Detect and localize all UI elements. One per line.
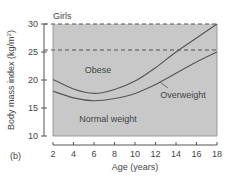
y-tick-label: 20: [28, 75, 38, 85]
panel-label: (b): [10, 151, 21, 161]
x-tick-label: 14: [171, 149, 181, 159]
x-tick-label: 12: [150, 149, 160, 159]
chart-title: Girls: [53, 11, 72, 21]
annotation-overweight: Overweight: [160, 90, 206, 100]
x-tick-label: 2: [50, 149, 55, 159]
y-tick-label: 25: [28, 47, 38, 57]
annotation-normal-weight: Normal weight: [79, 114, 137, 124]
x-tick-label: 10: [130, 149, 140, 159]
bmi-chart: 1015202530 24681012141618 Girls Age (yea…: [0, 0, 243, 183]
y-tick-label: 15: [28, 103, 38, 113]
x-tick-label: 6: [91, 149, 96, 159]
y-tick-label: 30: [28, 19, 38, 29]
y-tick-label: 10: [28, 131, 38, 141]
y-axis-label: Body mass index (kg/m2): [6, 30, 16, 130]
x-tick-label: 4: [71, 149, 76, 159]
y-axis-label-end: ): [6, 30, 16, 33]
x-tick-label: 18: [212, 149, 222, 159]
y-axis-label-main: Body mass index (kg/m: [6, 36, 16, 130]
x-axis-label: Age (years): [112, 162, 159, 172]
annotation-obese: Obese: [85, 65, 112, 75]
x-tick-label: 8: [112, 149, 117, 159]
x-tick-label: 16: [191, 149, 201, 159]
